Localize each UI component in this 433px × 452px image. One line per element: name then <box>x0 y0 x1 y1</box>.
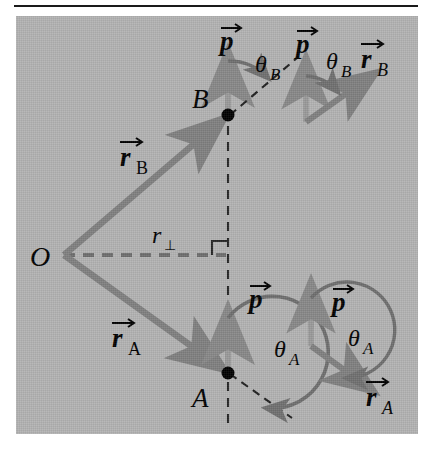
label-r-inset-b-group: r B <box>361 40 388 80</box>
label-theta-inset-b: θ <box>326 48 338 74</box>
label-r-perp: r <box>152 222 162 248</box>
label-p-at-a: p <box>247 284 263 314</box>
label-r-b-subscript: B <box>136 158 148 178</box>
point-b-marker <box>222 109 235 122</box>
label-p-at-b: p <box>218 26 234 56</box>
r-a-extension-dashed <box>230 374 292 418</box>
label-origin: O <box>30 241 50 272</box>
label-theta-a-group: θ A <box>274 336 300 369</box>
label-r-a-group: r A <box>112 319 141 359</box>
label-point-a: A <box>190 383 209 413</box>
label-p-inset-b: p <box>294 29 310 59</box>
label-theta-a: θ <box>274 336 286 362</box>
top-horizontal-rule <box>14 5 418 7</box>
label-r-perp-group: r ⊥ <box>152 222 176 253</box>
vector-r-a <box>64 255 222 368</box>
label-p-inset-b-group: p <box>294 27 317 59</box>
point-a-marker <box>222 367 235 380</box>
label-theta-b-group: θ B <box>255 51 281 84</box>
label-p-inset-a-group: p <box>330 285 353 317</box>
label-r-a-subscript: A <box>128 339 141 359</box>
inset-b-vector-r <box>306 74 374 122</box>
label-theta-inset-b-subscript: B <box>341 62 352 81</box>
figure-root: O B A p p p p <box>0 0 433 452</box>
label-r-inset-b-subscript: B <box>377 60 388 80</box>
label-theta-inset-a: θ <box>348 325 360 351</box>
label-r-inset-a-subscript: A <box>381 398 394 418</box>
label-theta-b: θ <box>255 51 267 77</box>
label-r-perp-subscript: ⊥ <box>164 238 176 253</box>
label-theta-inset-a-group: θ A <box>348 325 374 358</box>
label-r-inset-a-group: r A <box>366 378 394 418</box>
label-r-b: r <box>120 142 131 172</box>
vector-r-b <box>64 120 222 255</box>
label-r-b-group: r B <box>120 138 148 178</box>
figure-panel: O B A p p p p <box>16 16 418 434</box>
label-r-inset-a: r <box>366 382 377 412</box>
label-point-b: B <box>192 84 209 114</box>
label-theta-inset-a-subscript: A <box>362 339 374 358</box>
label-p-inset-a: p <box>330 287 346 317</box>
label-theta-inset-b-group: θ B <box>326 48 352 81</box>
label-theta-a-subscript: A <box>288 350 300 369</box>
inset-b-theta-arc <box>306 76 338 92</box>
label-p-at-b-group: p <box>218 24 241 56</box>
vector-diagram-svg: O B A p p p p <box>16 16 418 434</box>
label-r-inset-b: r <box>361 44 372 74</box>
label-theta-b-subscript: B <box>270 65 281 84</box>
label-r-a: r <box>112 323 123 353</box>
